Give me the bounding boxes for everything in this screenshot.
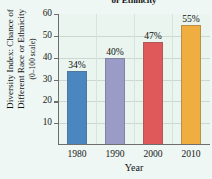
bar-value-label-1980: 34% [60,60,94,70]
x-tick-label-2000: 2000 [136,148,170,159]
bar-2000[interactable] [143,42,163,145]
gridline-x-2000 [134,14,135,145]
x-axis-line [58,144,210,145]
y-axis-title: Diversity Index: Chance of Different Rac… [0,0,42,133]
bar-1990[interactable] [105,58,125,145]
y-tick-label-60: 60 [36,9,52,18]
bar-value-label-1990: 40% [98,47,132,57]
y-tick-50 [54,36,59,37]
y-tick-label-10: 10 [36,118,52,127]
bar-1980[interactable] [67,71,87,145]
y-tick-60 [54,14,59,15]
gridline-x-2010 [172,14,173,145]
bar-value-label-2000: 47% [136,31,170,41]
y-tick-label-50: 50 [36,31,52,40]
y-tick-10 [54,123,59,124]
x-tick-label-2010: 2010 [174,148,208,159]
bar-2010[interactable] [181,25,201,145]
x-tick-label-1980: 1980 [60,148,94,159]
y-tick-label-30: 30 [36,75,52,84]
y-tick-20 [54,101,59,102]
y-tick-label-20: 20 [36,96,52,105]
y-tick-40 [54,58,59,59]
x-axis-title: Year [58,162,210,173]
bar-value-label-2010: 55% [174,14,208,24]
chart-title: or Ethnicity [56,0,212,5]
y-axis-title-line-2: Different Race or Ethnicity [16,9,27,109]
x-tick-label-1990: 1990 [98,148,132,159]
y-tick-label-40: 40 [36,53,52,62]
diversity-index-bar-chart: or Ethnicity Diversity Index: Chance of … [0,0,212,179]
y-tick-30 [54,80,59,81]
gridline-x-1990 [96,14,97,145]
y-axis-title-line-1: Diversity Index: Chance of [5,9,16,109]
plot-area [58,14,210,145]
